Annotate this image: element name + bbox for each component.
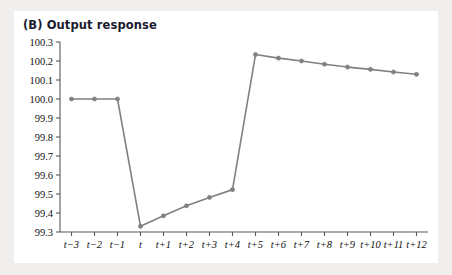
line-chart-svg: [22, 36, 432, 264]
figure-root: (B) Output response 100.3100.2100.1100.0…: [0, 0, 452, 275]
data-point-marker: [161, 214, 165, 218]
data-line: [72, 55, 417, 227]
x-axis-tick-label: t−3: [64, 239, 79, 250]
data-point-marker: [322, 62, 326, 66]
plot-area: 100.3100.2100.1100.099.999.899.799.699.5…: [22, 36, 432, 264]
x-axis-tick-label: t+3: [202, 239, 217, 250]
data-point-marker: [207, 195, 211, 199]
x-axis-tick-label: t−2: [87, 239, 102, 250]
data-point-marker: [368, 67, 372, 71]
x-axis-tick-label: t+1: [156, 239, 171, 250]
data-point-marker: [184, 204, 188, 208]
x-axis-tick-label: t+10: [360, 239, 381, 250]
y-axis-tick-label: 99.3: [22, 227, 53, 238]
data-point-marker: [115, 97, 119, 101]
data-point-marker: [414, 72, 418, 76]
data-point-marker: [391, 70, 395, 74]
y-axis-tick-label: 99.9: [22, 113, 53, 124]
data-point-marker: [253, 52, 257, 56]
data-point-marker: [299, 59, 303, 63]
y-axis-tick-label: 99.8: [22, 132, 53, 143]
data-point-marker: [69, 97, 73, 101]
data-point-marker: [345, 65, 349, 69]
x-axis-tick-label: t+4: [225, 239, 240, 250]
x-axis-tick-label: t+11: [384, 239, 404, 250]
y-axis-tick-label: 100.3: [22, 37, 53, 48]
data-point-marker: [92, 97, 96, 101]
x-axis-tick-label: t+5: [248, 239, 263, 250]
x-axis-tick-label: t−1: [110, 239, 125, 250]
x-axis-tick-label: t+9: [340, 239, 355, 250]
y-axis-tick-label: 99.4: [22, 208, 53, 219]
y-axis-tick-label: 99.7: [22, 151, 53, 162]
y-axis-tick-label: 100.1: [22, 75, 53, 86]
y-axis-tick-label: 100.0: [22, 94, 53, 105]
x-axis-tick-label: t+7: [294, 239, 309, 250]
x-axis-tick-label: t+8: [317, 239, 332, 250]
y-axis-tick-label: 99.5: [22, 189, 53, 200]
y-axis-tick-label: 100.2: [22, 56, 53, 67]
x-axis-tick-label: t+12: [406, 239, 427, 250]
x-axis-tick-label: t+2: [179, 239, 194, 250]
y-axis-tick-label: 99.6: [22, 170, 53, 181]
x-axis-tick-label: t+6: [271, 239, 286, 250]
page-title: (B) Output response: [23, 18, 157, 32]
data-point-marker: [230, 188, 234, 192]
x-axis-tick-label: t: [139, 239, 142, 250]
data-point-marker: [138, 224, 142, 228]
data-point-marker: [276, 56, 280, 60]
